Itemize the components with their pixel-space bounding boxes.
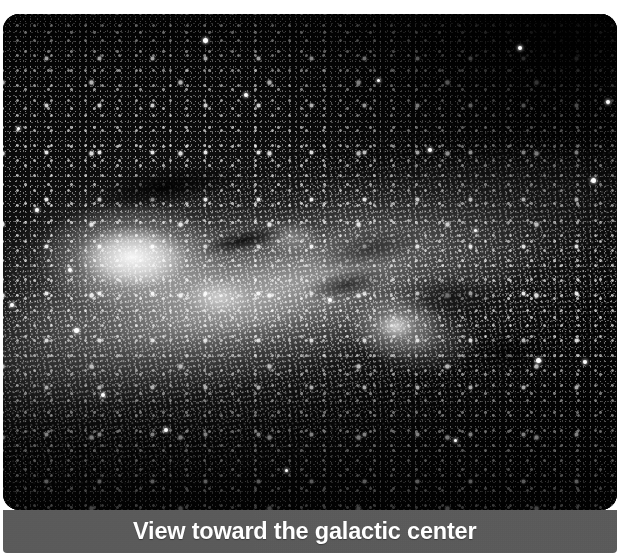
- film-grain-overlay: [3, 14, 617, 510]
- caption-text: View toward the galactic center: [133, 518, 476, 545]
- galaxy-photograph: [3, 14, 617, 510]
- figure-container: View toward the galactic center: [0, 0, 626, 553]
- caption-bar: View toward the galactic center: [3, 510, 617, 553]
